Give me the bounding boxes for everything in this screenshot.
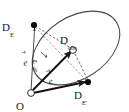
point-label-dobs-base: D [60,34,68,46]
point-label-deprime-base: D [74,89,82,101]
point-label-deprime-sub: E′ [82,99,87,106]
point-label-dobs: Dobs [60,31,76,50]
figure-canvas [0,0,129,112]
vector-geometry-figure: DE Dobs DE′ O e eobs e′ [0,0,129,112]
point-label-de-base: D [2,21,10,33]
point-label-de: DE [2,18,14,37]
connector-dobs-to-deprime [75,54,88,80]
point-label-o-base: O [16,100,24,112]
point-label-deprime: DE′ [74,86,87,105]
point-label-o: O [16,97,24,112]
point-marker-deprime [85,79,91,85]
point-marker-de [31,22,37,28]
point-marker-o [28,90,35,97]
point-label-de-sub: E [10,31,14,38]
point-label-dobs-sub: obs [68,44,76,51]
